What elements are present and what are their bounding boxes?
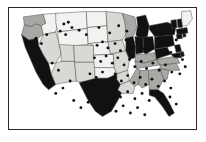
map-point-marker (31, 48, 34, 51)
map-point-marker (78, 29, 81, 32)
map-point-marker (142, 48, 145, 51)
map-point-marker (184, 65, 187, 68)
map-point-marker (106, 47, 109, 50)
map-point-marker (69, 80, 72, 83)
map-region-nd: North Dakota (86, 12, 107, 28)
map-point-marker (164, 64, 167, 67)
map-point-marker (85, 33, 88, 36)
map-point-marker (163, 80, 166, 83)
map-point-marker (151, 78, 154, 81)
map-point-marker (88, 72, 91, 75)
map-point-marker (62, 87, 65, 90)
map-region-ks: Kansas (94, 54, 115, 67)
map-point-marker (139, 76, 142, 79)
map-point-marker (130, 46, 133, 49)
map-point-marker (141, 92, 144, 95)
map-point-marker (99, 60, 102, 63)
map-point-marker (120, 80, 123, 83)
map-point-marker (72, 99, 75, 102)
map-point-marker (155, 94, 158, 97)
map-point-marker (93, 56, 96, 59)
map-point-marker (105, 55, 108, 58)
map-point-marker (95, 76, 98, 79)
map-point-marker (124, 39, 127, 42)
map-point-marker (42, 74, 45, 77)
map-point-marker (107, 103, 110, 106)
map-point-marker (151, 28, 154, 31)
map-point-marker (40, 42, 43, 45)
map-point-marker (93, 104, 96, 107)
map-region-ma: Massachusetts (176, 28, 188, 35)
map-point-marker (100, 108, 103, 111)
figure-container: WashingtonOregonCaliforniaIdahoNevadaMon… (0, 0, 206, 142)
map-point-marker (133, 65, 136, 68)
map-point-marker (169, 51, 172, 54)
map-region-fl: Florida (149, 90, 174, 117)
map-point-marker (126, 74, 129, 77)
map-point-marker (59, 30, 62, 33)
map-point-marker (45, 33, 48, 36)
map-point-marker (135, 40, 138, 43)
map-point-marker (140, 60, 143, 63)
map-point-marker (158, 69, 161, 72)
map-frame-border: WashingtonOregonCaliforniaIdahoNevadaMon… (8, 7, 197, 130)
map-region-al: Alabama (138, 70, 149, 88)
map-region-co: Colorado (74, 45, 95, 62)
map-region-oh: Ohio (143, 36, 155, 54)
map-point-marker (175, 39, 178, 42)
map-point-marker (122, 104, 125, 107)
map-point-marker (133, 97, 136, 100)
map-point-marker (128, 58, 131, 61)
map-point-marker (64, 33, 67, 36)
map-point-marker (168, 96, 171, 99)
map-point-marker (143, 113, 146, 116)
states-layer: WashingtonOregonCaliforniaIdahoNevadaMon… (22, 11, 193, 117)
map-point-marker (51, 62, 54, 65)
map-point-marker (112, 88, 115, 91)
map-point-marker (114, 72, 117, 75)
map-point-marker (79, 106, 82, 109)
map-point-marker (111, 62, 114, 65)
map-point-marker (48, 81, 51, 84)
map-point-marker (144, 83, 147, 86)
map-point-marker (96, 44, 99, 47)
map-point-marker (129, 112, 132, 115)
map-point-marker (148, 99, 151, 102)
map-point-marker (125, 30, 128, 33)
map-point-marker (67, 21, 70, 24)
map-point-marker (136, 106, 139, 109)
map-point-marker (97, 26, 100, 29)
map-point-marker (115, 110, 118, 113)
map-point-marker (126, 90, 129, 93)
map-point-marker (114, 42, 117, 45)
map-point-marker (101, 71, 104, 74)
map-point-marker (54, 92, 57, 95)
map-point-marker (35, 37, 38, 40)
map-point-marker (133, 81, 136, 84)
choropleth-map: WashingtonOregonCaliforniaIdahoNevadaMon… (9, 8, 196, 129)
map-point-marker (117, 24, 120, 27)
map-point-marker (62, 23, 65, 26)
map-point-marker (148, 42, 151, 45)
map-point-marker (157, 85, 160, 88)
map-point-marker (178, 72, 181, 75)
map-point-marker (175, 103, 178, 106)
map-point-marker (119, 96, 122, 99)
map-point-marker (162, 101, 165, 104)
map-point-marker (145, 67, 148, 70)
map-point-marker (97, 90, 100, 93)
map-point-marker (181, 58, 184, 61)
map-region-ut: Utah (59, 44, 74, 61)
map-point-marker (70, 26, 73, 29)
map-point-marker (151, 62, 154, 65)
map-point-marker (87, 101, 90, 104)
map-point-marker (177, 46, 180, 49)
map-point-marker (107, 78, 110, 81)
map-point-marker (119, 49, 122, 52)
map-point-marker (160, 33, 163, 36)
map-region-az: Arizona (51, 61, 76, 84)
map-region-vt: Vermont (171, 20, 177, 29)
map-region-wy: Wyoming (58, 28, 89, 47)
map-region-pa: Pennsylvania (155, 35, 175, 49)
map-point-marker (170, 71, 173, 74)
